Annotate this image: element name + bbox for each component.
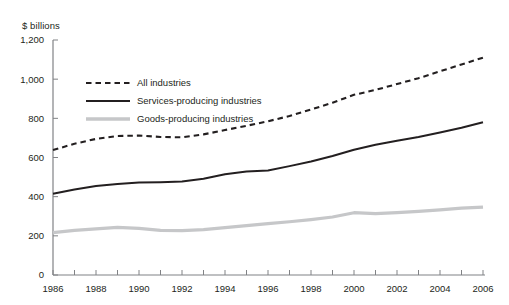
- x-axis-tick-labels: 1986198819901992199419961998200020022004…: [42, 283, 493, 294]
- legend-label-2: Services-producing industries: [137, 95, 262, 106]
- x-tick-label: 1990: [128, 283, 149, 294]
- y-axis-tick-marks: [53, 40, 58, 275]
- x-tick-label: 1986: [42, 283, 63, 294]
- series-line-3: [53, 207, 483, 233]
- x-axis-tick-marks: [53, 270, 483, 275]
- y-tick-label: 1,000: [20, 74, 44, 85]
- x-tick-label: 2002: [386, 283, 407, 294]
- y-tick-label: 800: [28, 113, 44, 124]
- y-tick-label: 600: [28, 152, 44, 163]
- legend-label-1: All industries: [137, 77, 191, 88]
- line-chart: 02004006008001,0001,200 1986198819901992…: [0, 0, 509, 305]
- x-tick-label: 1988: [85, 283, 106, 294]
- x-tick-label: 1994: [214, 283, 235, 294]
- x-tick-label: 1992: [171, 283, 192, 294]
- y-axis-tick-labels: 02004006008001,0001,200: [20, 34, 44, 280]
- chart-legend: All industriesServices-producing industr…: [86, 77, 262, 124]
- x-tick-label: 2004: [429, 283, 450, 294]
- x-tick-label: 2000: [343, 283, 364, 294]
- series-line-2: [53, 122, 483, 193]
- x-tick-label: 2006: [472, 283, 493, 294]
- legend-label-3: Goods-producing industries: [137, 113, 253, 124]
- x-tick-label: 1996: [257, 283, 278, 294]
- x-tick-label: 1998: [300, 283, 321, 294]
- y-tick-label: 1,200: [20, 34, 44, 45]
- y-tick-label: 400: [28, 191, 44, 202]
- y-tick-label: 0: [39, 269, 44, 280]
- chart-container: $ billions 02004006008001,0001,200 19861…: [0, 0, 509, 305]
- y-tick-label: 200: [28, 230, 44, 241]
